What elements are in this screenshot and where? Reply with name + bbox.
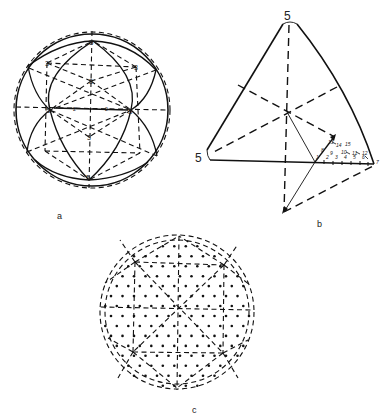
twofold-label: 2: [105, 106, 108, 112]
lattice-dot: [202, 315, 205, 318]
lattice-dot: [173, 384, 176, 387]
diagonal-number: 14: [336, 142, 342, 148]
lattice-dot: [162, 384, 165, 387]
lattice-dot: [133, 375, 136, 378]
lattice-dot: [156, 275, 159, 278]
lattice-dot: [133, 275, 136, 278]
triangulation-dashed: [101, 236, 253, 390]
inner-number: 11: [352, 150, 357, 156]
lattice-dot: [190, 375, 193, 378]
lattice-dot: [144, 255, 147, 258]
lattice-dot: [208, 345, 211, 348]
inner-number: 10: [341, 149, 347, 155]
lattice-dot: [110, 335, 113, 338]
dashed-line: [89, 110, 131, 137]
lattice-dot: [173, 365, 176, 368]
lattice-dot: [127, 265, 130, 268]
lattice-dot: [190, 315, 193, 318]
lattice-dot: [185, 265, 188, 268]
lattice-dot: [190, 255, 193, 258]
panel-b-caption: b: [317, 219, 322, 229]
lattice-dot: [202, 375, 205, 378]
panel-a-caption: a: [57, 211, 62, 221]
diagonal-number: 13: [328, 139, 334, 145]
baseline-number: 1: [316, 154, 319, 160]
dashed-back-edge: [284, 166, 373, 212]
lattice-dot: [190, 355, 193, 358]
lattice-dot: [139, 285, 142, 288]
lattice-dot: [144, 295, 147, 298]
lattice-dot: [116, 345, 119, 348]
diagonal-number: 8: [321, 147, 324, 153]
lattice-dot: [196, 285, 199, 288]
lattice-dot: [173, 305, 176, 308]
lattice-dot: [167, 255, 170, 258]
lattice-dot: [162, 285, 165, 288]
great-circle-arc: [27, 110, 50, 152]
lattice-dot: [104, 325, 107, 328]
lattice-dot: [167, 335, 170, 338]
lattice-dot: [144, 375, 147, 378]
lattice-dot: [242, 325, 245, 328]
lattice-dot: [185, 345, 188, 348]
panel-c: c: [100, 235, 254, 415]
corner-label-left: 5: [195, 151, 202, 165]
lattice-dot: [236, 335, 239, 338]
lattice-dot: [208, 325, 211, 328]
lattice-dot: [185, 365, 188, 368]
lattice-dot: [213, 335, 216, 338]
lattice-dot: [208, 285, 211, 288]
lattice-dot: [208, 265, 211, 268]
figure-canvas: 5 5 5 5 3 3 3 3 2 2 a: [0, 0, 390, 416]
lattice-dot: [167, 275, 170, 278]
lattice-dot: [179, 315, 182, 318]
lattice-dot: [127, 305, 130, 308]
lattice-dot: [173, 325, 176, 328]
lattice-dot: [156, 375, 159, 378]
dashed-line: [45, 151, 140, 153]
lattice-dot: [144, 355, 147, 358]
lattice-dot: [162, 245, 165, 248]
lattice-dot: [110, 315, 113, 318]
lattice-dot: [127, 285, 130, 288]
lattice-dot: [190, 275, 193, 278]
lattice-dot: [196, 245, 199, 248]
lattice-dot: [162, 325, 165, 328]
lattice-dot: [185, 245, 188, 248]
lattice-dot: [144, 315, 147, 318]
lattice-dot: [236, 295, 239, 298]
lattice-dot: [133, 315, 136, 318]
baseline-number: 2: [325, 154, 329, 160]
lattice-dot: [121, 355, 124, 358]
lattice-dot: [225, 355, 228, 358]
lattice-dot: [196, 325, 199, 328]
lattice-dot: [213, 315, 216, 318]
inner-number: 12: [362, 150, 368, 156]
lattice-dot: [156, 315, 159, 318]
lattice-dot: [219, 325, 222, 328]
lattice-dot: [133, 355, 136, 358]
diagonal-number: 15: [345, 141, 351, 147]
triangle-base: [210, 160, 374, 164]
lattice-dot: [179, 355, 182, 358]
corner-arc-left: [207, 150, 210, 160]
lattice-dot: [121, 315, 124, 318]
great-circle-arc: [131, 70, 156, 110]
lattice-dot: [213, 295, 216, 298]
lattice-dot: [231, 345, 234, 348]
lattice-dot: [173, 285, 176, 288]
dashed-line: [50, 110, 89, 137]
lattice-dot: [144, 275, 147, 278]
lattice-dot: [248, 315, 251, 318]
lattice-dot: [196, 345, 199, 348]
lattice-dot: [236, 355, 239, 358]
lattice-dot: [156, 335, 159, 338]
twofold-label: 2: [73, 106, 76, 112]
lattice-dot: [179, 295, 182, 298]
dashed-vertical-axis: [284, 25, 289, 212]
lattice-dot: [219, 305, 222, 308]
baseline-number: 7: [376, 159, 379, 165]
lattice-dot: [104, 305, 107, 308]
lattice-dot: [179, 375, 182, 378]
threefold-label: 3: [89, 78, 93, 85]
